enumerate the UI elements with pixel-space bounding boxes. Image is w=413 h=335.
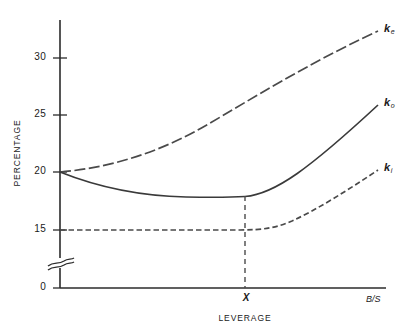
y-tick-label-25: 25: [22, 108, 46, 119]
chart-plot-area: [0, 0, 413, 335]
curve-label-ke-main: k: [384, 22, 390, 34]
y-tick-label-30: 30: [22, 51, 46, 62]
curve-label-ko-main: k: [384, 96, 390, 108]
curve-label-ki-sub: i: [391, 167, 393, 174]
curve-label-ki: ki: [384, 161, 392, 173]
curve-label-ke-sub: e: [391, 28, 395, 35]
curve-label-ki-main: k: [384, 161, 390, 173]
y-axis-title: PERCENTAGE: [12, 108, 22, 198]
axis-break-icon: [48, 258, 74, 270]
cost-of-capital-chart: 30 25 20 15 0 PERCENTAGE LEVERAGE X B/S …: [0, 0, 413, 335]
x-axis-end-label: B/S: [366, 294, 381, 304]
curve-label-ko-sub: o: [391, 102, 395, 109]
curve-label-ke: ke: [384, 22, 394, 34]
y-tick-label-15: 15: [22, 223, 46, 234]
x-axis-marker-X: X: [226, 292, 266, 303]
curve-ki: [60, 170, 378, 230]
x-axis-title: LEVERAGE: [185, 313, 305, 323]
y-tick-label-20: 20: [22, 165, 46, 176]
y-tick-label-0: 0: [22, 281, 46, 292]
curve-label-ko: ko: [384, 96, 394, 108]
curve-ko: [60, 105, 378, 197]
curve-ke: [60, 31, 378, 172]
